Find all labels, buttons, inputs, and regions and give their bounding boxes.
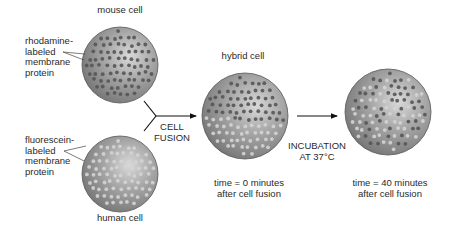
fluorescein-label: fluorescein- labeled membrane protein (25, 135, 74, 177)
hybrid-cell (202, 73, 288, 159)
caption-line: time = 0 minutes (214, 178, 284, 189)
label-line: rhodamine- (25, 36, 73, 47)
label-line: protein (25, 68, 73, 79)
cell-fusion-label: CELL FUSION (154, 122, 190, 143)
rhodamine-label: rhodamine- labeled membrane protein (25, 36, 73, 78)
mouse-cell (82, 27, 158, 103)
human-cell (82, 136, 158, 212)
incubation-label: INCUBATION AT 37°C (288, 141, 346, 162)
step-line: CELL (154, 122, 190, 133)
hybrid-cell-title: hybrid cell (222, 51, 265, 62)
caption-line: after cell fusion (352, 189, 427, 200)
time-zero-caption: time = 0 minutes after cell fusion (214, 178, 284, 199)
step-line: AT 37°C (288, 152, 346, 163)
cell-fusion-diagram: mouse cell human cell hybrid cell rhodam… (0, 0, 464, 227)
label-line: fluorescein- (25, 135, 74, 146)
label-line: membrane (25, 156, 74, 167)
human-cell-title: human cell (97, 213, 143, 224)
caption-line: time = 40 minutes (352, 178, 427, 189)
step-line: FUSION (154, 133, 190, 144)
time-forty-caption: time = 40 minutes after cell fusion (352, 178, 427, 199)
step-line: INCUBATION (288, 141, 346, 152)
label-line: membrane (25, 57, 73, 68)
mouse-cell-title: mouse cell (97, 5, 142, 16)
mixed-hybrid-cell (345, 69, 431, 155)
caption-line: after cell fusion (214, 189, 284, 200)
label-line: protein (25, 167, 74, 178)
